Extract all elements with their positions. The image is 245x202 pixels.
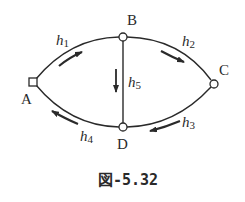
- node-a-square-icon: [29, 78, 37, 86]
- node-label-a: A: [21, 91, 32, 107]
- edge-label-h1: h1: [56, 32, 69, 49]
- edge-label-h3: h3: [182, 114, 196, 131]
- node-label-c: C: [219, 62, 229, 78]
- node-label-b: B: [127, 12, 137, 28]
- flow-arrow-h4-icon: [52, 111, 78, 124]
- edge-h1: [36, 37, 119, 79]
- node-b-circle-icon: [119, 33, 127, 41]
- edge-h2: [127, 37, 211, 80]
- edge-label-h4: h4: [80, 128, 94, 145]
- edge-h3: [127, 87, 211, 127]
- flow-arrow-h2-icon: [161, 51, 184, 62]
- edge-label-h2: h2: [182, 33, 195, 50]
- node-label-d: D: [117, 136, 128, 152]
- figure-caption: 図-5.32: [98, 168, 158, 189]
- edge-label-h5: h5: [128, 74, 142, 91]
- node-c-circle-icon: [210, 80, 218, 88]
- node-d-circle-icon: [119, 123, 127, 131]
- edge-h4: [36, 85, 119, 127]
